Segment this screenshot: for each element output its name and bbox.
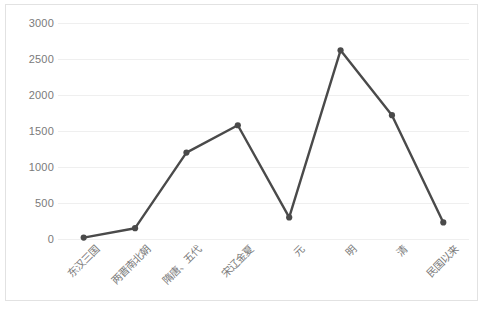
x-axis-tick-label: 明 <box>341 241 359 259</box>
plot-area <box>58 23 469 239</box>
x-axis-tick-label: 东汉三国 <box>63 241 102 280</box>
x-axis-tick-text: 元 <box>290 241 308 259</box>
y-axis-tick-label: 500 <box>8 197 54 209</box>
x-axis-tick-label: 元 <box>290 241 308 259</box>
x-axis-tick-label: 清 <box>393 241 411 259</box>
x-axis-tick-label: 民国以来 <box>423 241 462 280</box>
y-axis-tick-label: 0 <box>8 233 54 245</box>
x-axis-tick-text: 东汉三国 <box>63 241 102 280</box>
data-point-marker[interactable] <box>132 225 138 231</box>
x-axis-tick-text: 宋辽金夏 <box>218 241 257 280</box>
y-axis: 300025002000150010005000 <box>6 23 54 239</box>
y-axis-tick-label: 3000 <box>8 17 54 29</box>
series-line <box>84 50 444 237</box>
x-axis-tick-label: 两晋南北朝 <box>108 241 154 287</box>
data-point-marker[interactable] <box>183 150 189 156</box>
y-axis-tick-label: 2500 <box>8 53 54 65</box>
chart-container: 300025002000150010005000 东汉三国两晋南北朝隋唐、五代宋… <box>5 4 478 301</box>
x-axis-tick-label: 宋辽金夏 <box>218 241 257 280</box>
x-axis-tick-text: 民国以来 <box>423 241 462 280</box>
y-axis-tick-label: 1000 <box>8 161 54 173</box>
data-point-marker[interactable] <box>440 219 446 225</box>
x-axis-tick-text: 清 <box>393 241 411 259</box>
y-axis-tick-label: 1500 <box>8 125 54 137</box>
x-axis: 东汉三国两晋南北朝隋唐、五代宋辽金夏元明清民国以来 <box>58 239 469 301</box>
x-axis-tick-text: 隋唐、五代 <box>159 241 205 287</box>
data-point-marker[interactable] <box>389 112 395 118</box>
data-point-marker[interactable] <box>286 214 292 220</box>
data-point-marker[interactable] <box>235 122 241 128</box>
x-axis-tick-text: 两晋南北朝 <box>108 241 154 287</box>
x-axis-tick-text: 明 <box>341 241 359 259</box>
data-point-marker[interactable] <box>337 47 343 53</box>
x-axis-tick-label: 隋唐、五代 <box>159 241 205 287</box>
line-series <box>58 23 469 239</box>
y-axis-tick-label: 2000 <box>8 89 54 101</box>
